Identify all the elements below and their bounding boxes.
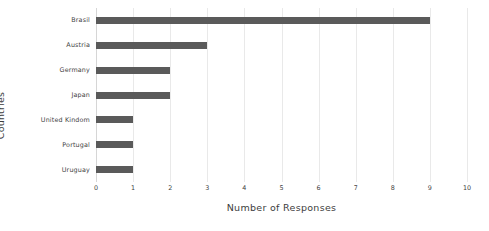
bar [96, 17, 430, 24]
y-tick-label-text: Uruguay [62, 166, 90, 174]
bar [96, 166, 133, 173]
bar-series [96, 8, 467, 182]
y-axis-tick-labels: BrasilAustriaGermanyJapanUnited KindomPo… [22, 8, 94, 182]
y-tick-label: Brasil [22, 8, 94, 33]
bar-row [96, 8, 467, 33]
y-tick-label-text: Germany [60, 66, 90, 74]
x-axis-title-label: Number of Responses [227, 202, 337, 213]
x-tick-label: 4 [242, 184, 246, 192]
y-tick-label: Germany [22, 58, 94, 83]
x-tick-label: 6 [317, 184, 321, 192]
x-tick-label: 10 [463, 184, 471, 192]
bar-row [96, 33, 467, 58]
y-axis-title-label: Countries [0, 92, 6, 139]
y-tick-label: Japan [22, 83, 94, 108]
x-axis-tick-labels: 012345678910 [96, 184, 467, 196]
x-tick-label: 7 [354, 184, 358, 192]
bar-chart: Countries BrasilAustriaGermanyJapanUnite… [0, 0, 489, 231]
bar-row [96, 157, 467, 182]
y-tick-label: Austria [22, 33, 94, 58]
bar-row [96, 107, 467, 132]
bar [96, 42, 207, 49]
x-tick-label: 5 [279, 184, 283, 192]
bar [96, 141, 133, 148]
x-tick-label: 1 [131, 184, 135, 192]
y-tick-label: Uruguay [22, 157, 94, 182]
bar-row [96, 58, 467, 83]
x-tick-label: 2 [168, 184, 172, 192]
y-tick-label-text: Brasil [71, 16, 90, 24]
gridline [467, 8, 468, 182]
bar [96, 116, 133, 123]
y-tick-label-text: United Kindom [41, 116, 90, 124]
x-tick-label: 3 [205, 184, 209, 192]
bar-row [96, 132, 467, 157]
y-tick-label: Portugal [22, 132, 94, 157]
y-tick-label-text: Japan [71, 91, 90, 99]
x-axis-title: Number of Responses [96, 202, 467, 213]
bar [96, 67, 170, 74]
plot-area [96, 8, 467, 182]
x-tick-label: 8 [391, 184, 395, 192]
y-tick-label-text: Austria [66, 41, 90, 49]
bar-row [96, 83, 467, 108]
x-tick-label: 9 [428, 184, 432, 192]
x-tick-label: 0 [94, 184, 98, 192]
y-tick-label-text: Portugal [62, 141, 90, 149]
y-tick-label: United Kindom [22, 107, 94, 132]
bar [96, 92, 170, 99]
